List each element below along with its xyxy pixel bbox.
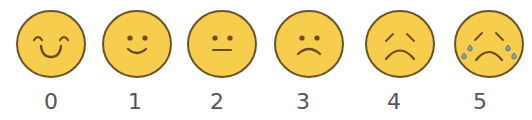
crying-face-icon — [453, 9, 525, 79]
rating-label-5: 5 — [460, 89, 500, 115]
rating-label-2: 2 — [197, 89, 237, 115]
pain-rating-scale: 0 1 2 3 — [0, 0, 532, 120]
neutral-face-icon — [186, 9, 258, 79]
sad-face-icon — [364, 9, 436, 79]
rating-label-3: 3 — [283, 89, 323, 115]
rating-label-1: 1 — [115, 89, 155, 115]
very-happy-face-icon — [15, 9, 87, 79]
rating-label-0: 0 — [31, 89, 71, 115]
happy-face-icon — [101, 9, 173, 79]
slightly-sad-face-icon — [273, 9, 345, 79]
rating-label-4: 4 — [374, 89, 414, 115]
